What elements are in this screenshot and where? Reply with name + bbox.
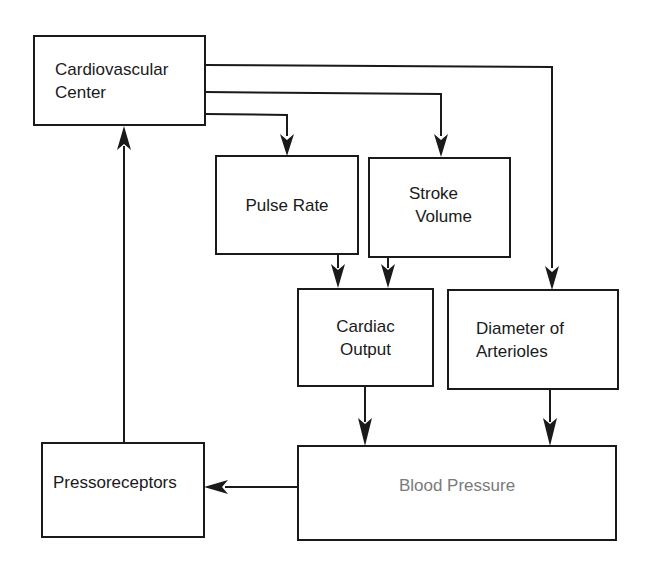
node-label-line: Pulse Rate — [245, 194, 328, 217]
arrow-down-icon — [280, 134, 294, 156]
node-label-line: Cardiovascular — [55, 58, 168, 81]
edge-stroke-volume-to-cardiac-output — [381, 257, 395, 288]
edge-cvc-to-pulse-rate — [205, 114, 294, 156]
node-label-line: Center — [55, 81, 106, 104]
node-label-line: Cardiac — [336, 315, 395, 338]
node-cardiac-output: Cardiac Output — [297, 288, 434, 387]
node-pulse-rate: Pulse Rate — [215, 155, 359, 255]
edge-pulse-rate-to-cardiac-output — [331, 255, 345, 288]
edge-diameter-to-blood-pressure — [543, 389, 557, 446]
diagram-canvas: Cardiovascular Center Pulse Rate Stroke … — [0, 0, 646, 566]
edge-pressoreceptors-to-cvc — [117, 126, 131, 442]
node-label-line: Pressoreceptors — [53, 471, 177, 494]
node-label-line: Output — [340, 338, 391, 361]
node-label-line: Diameter of — [476, 317, 564, 340]
edge-cardiac-output-to-blood-pressure — [358, 386, 372, 446]
arrow-down-icon — [434, 134, 448, 157]
arrow-left-icon — [204, 480, 228, 494]
node-diameter-of-arterioles: Diameter of Arterioles — [447, 289, 619, 390]
edge-cvc-to-stroke-volume — [205, 92, 448, 157]
edge-blood-pressure-to-pressoreceptors — [204, 480, 297, 494]
node-label-line: Arterioles — [476, 340, 548, 363]
arrow-down-icon — [545, 266, 559, 290]
arrow-down-icon — [358, 418, 372, 446]
node-label-line: Volume — [415, 205, 472, 228]
arrow-down-icon — [543, 418, 557, 446]
node-cardiovascular-center: Cardiovascular Center — [33, 35, 206, 126]
node-stroke-volume: Stroke Volume — [368, 157, 511, 258]
node-label-line: Stroke — [409, 182, 458, 205]
node-pressoreceptors: Pressoreceptors — [41, 442, 205, 538]
node-blood-pressure: Blood Pressure — [297, 445, 617, 541]
node-label-line: Blood Pressure — [399, 474, 515, 497]
